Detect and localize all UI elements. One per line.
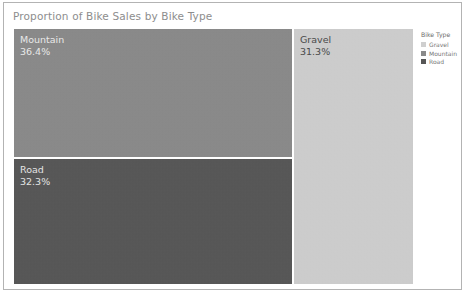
legend-item-mountain[interactable]: Mountain: [421, 50, 465, 57]
legend-swatch-mountain: [421, 51, 426, 56]
legend-swatch-gravel: [421, 42, 426, 47]
treemap-tile-mountain[interactable]: Mountain 36.4%: [14, 29, 292, 157]
treemap-tile-gravel-value: 31.3%: [300, 46, 413, 58]
legend-item-road[interactable]: Road: [421, 58, 465, 65]
legend: Bike Type Gravel Mountain Road: [421, 31, 465, 67]
treemap-tile-road-label: Road: [20, 164, 292, 176]
legend-title: Bike Type: [421, 31, 465, 38]
legend-label-road: Road: [429, 58, 444, 65]
treemap-plot-area: Mountain 36.4% Road 32.3% Gravel 31.3%: [12, 28, 405, 282]
treemap-tile-gravel-label: Gravel: [300, 34, 413, 46]
legend-label-gravel: Gravel: [429, 41, 449, 48]
legend-item-gravel[interactable]: Gravel: [421, 41, 465, 48]
chart-title: Proportion of Bike Sales by Bike Type: [13, 10, 212, 22]
treemap-tile-mountain-label: Mountain: [20, 34, 292, 46]
treemap-tile-gravel[interactable]: Gravel 31.3%: [294, 29, 413, 284]
chart-frame: Proportion of Bike Sales by Bike Type Mo…: [3, 2, 462, 290]
treemap-tile-road[interactable]: Road 32.3%: [14, 159, 292, 284]
treemap-tile-mountain-value: 36.4%: [20, 46, 292, 58]
legend-swatch-road: [421, 59, 426, 64]
treemap-tile-road-value: 32.3%: [20, 176, 292, 188]
legend-label-mountain: Mountain: [429, 50, 457, 57]
